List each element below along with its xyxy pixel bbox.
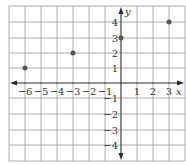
x-tick-label: 3 [166, 86, 172, 97]
y-axis-label: y [124, 6, 131, 17]
y-tick-label: 4 [112, 17, 118, 28]
x-tick-label: 1 [134, 86, 140, 97]
x-axis-label: x [176, 86, 182, 97]
y-tick-label: 3 [112, 33, 118, 44]
y-axis-down-arrow-icon [119, 153, 124, 160]
data-point [167, 20, 172, 25]
data-point [23, 66, 28, 71]
y-tick-label: −4 [103, 140, 118, 151]
y-tick-label: −2 [103, 109, 118, 120]
x-tick-label: 2 [150, 86, 156, 97]
x-tick-label: −2 [82, 86, 97, 97]
y-tick-label: 2 [112, 48, 118, 59]
coordinate-plane: y x −6 −5 −4 −3 −2 −1 1 2 3 4 3 2 1 −1 −… [0, 0, 186, 165]
x-tick-label: −3 [66, 86, 81, 97]
y-tick-labels: 4 3 2 1 −1 −2 −3 −4 [103, 17, 118, 151]
data-point [71, 51, 76, 56]
x-tick-label: −6 [18, 86, 33, 97]
data-points [23, 20, 172, 71]
y-tick-label: 1 [112, 63, 118, 74]
y-tick-label: −1 [103, 93, 118, 104]
x-tick-label: −4 [50, 86, 65, 97]
data-point [119, 36, 124, 41]
x-axis-right-arrow-icon [177, 81, 184, 86]
x-axis [10, 81, 184, 86]
y-axis-up-arrow-icon [119, 7, 124, 14]
x-tick-label: −5 [34, 86, 49, 97]
x-axis-left-arrow-icon [10, 81, 17, 86]
y-tick-label: −3 [103, 125, 118, 136]
x-tick-labels: −6 −5 −4 −3 −2 −1 1 2 3 [18, 86, 173, 97]
